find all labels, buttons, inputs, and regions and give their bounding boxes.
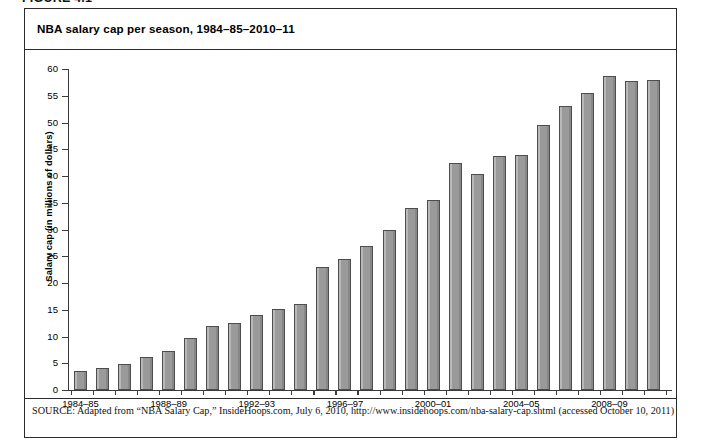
bar [603,76,616,390]
x-tick [291,390,292,395]
bar [493,156,506,390]
x-tick [380,390,381,395]
x-tick [644,390,645,395]
x-tick [357,390,358,395]
x-tick [71,390,72,395]
x-tick [424,390,425,395]
bar [559,106,572,390]
y-tick-label: 50 [47,117,58,128]
bar [74,371,87,390]
x-tick [402,390,403,395]
source-divider [25,398,676,399]
x-tick [313,390,314,395]
bar [581,93,594,390]
x-tick [93,390,94,395]
bar [250,315,263,390]
x-tick [203,390,204,395]
bar [427,200,440,390]
x-tick [225,390,226,395]
bar [625,81,638,390]
x-tick [335,390,336,395]
x-tick [578,390,579,395]
bar [316,267,329,390]
source-kicker: SOURCE: [32,405,75,416]
bar [515,155,528,390]
bar [360,246,373,390]
plot-area: Salary cap (in millions of dollars) 0510… [25,49,676,397]
y-tick-label: 20 [47,277,58,288]
bar [449,163,462,390]
x-tick [556,390,557,395]
y-tick-label: 0 [53,384,58,395]
y-tick-label: 35 [47,197,58,208]
y-tick-label: 55 [47,90,58,101]
bar-series [69,69,672,390]
x-tick [181,390,182,395]
bar [118,364,131,390]
y-tick-label: 5 [53,357,58,368]
y-tick-label: 40 [47,170,58,181]
bar [338,259,351,390]
bar [272,309,285,390]
y-tick-label: 45 [47,143,58,154]
x-tick [137,390,138,395]
y-tick-label: 10 [47,331,58,342]
x-tick [159,390,160,395]
x-tick [468,390,469,395]
bar [383,230,396,391]
figure-box: NBA salary cap per season, 1984–85–2010–… [24,8,677,438]
x-tick [666,390,667,395]
bar [206,326,219,390]
bar [537,125,550,390]
y-tick-label: 15 [47,304,58,315]
x-tick [115,390,116,395]
bar [471,174,484,390]
bar [140,357,153,390]
chart-title: NBA salary cap per season, 1984–85–2010–… [37,22,295,35]
x-tick [269,390,270,395]
x-tick [600,390,601,395]
source-note: SOURCE: Adapted from “NBA Salary Cap,” I… [32,405,672,418]
x-tick [247,390,248,395]
bar [294,304,307,390]
bar [228,323,241,390]
y-tick-label: 60 [47,63,58,74]
figure-label: FIGURE 4.1 [22,0,92,5]
bar [184,338,197,390]
x-tick [446,390,447,395]
source-text: Adapted from “NBA Salary Cap,” InsideHoo… [75,405,674,416]
bar [162,351,175,390]
x-tick [490,390,491,395]
bar [96,368,109,390]
x-tick [512,390,513,395]
x-tick [622,390,623,395]
bar [647,80,660,390]
x-tick [534,390,535,395]
y-tick-label: 25 [47,250,58,261]
y-tick-label: 30 [47,224,58,235]
bar [405,208,418,390]
